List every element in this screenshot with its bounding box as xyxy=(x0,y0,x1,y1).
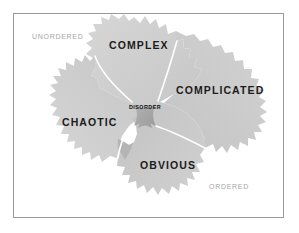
axis-label-unordered: UNORDERED xyxy=(32,33,83,40)
diagram-frame: UNORDERED ORDERED COMPLEX COMPLICATED CH… xyxy=(0,0,299,233)
domain-label-chaotic: CHAOTIC xyxy=(62,116,118,128)
axis-label-ordered: ORDERED xyxy=(209,183,249,190)
domain-label-disorder: DISORDER xyxy=(129,104,161,110)
domain-label-complicated: COMPLICATED xyxy=(176,84,264,96)
domain-label-complex: COMPLEX xyxy=(109,39,169,51)
domain-label-obvious: OBVIOUS xyxy=(140,159,196,171)
